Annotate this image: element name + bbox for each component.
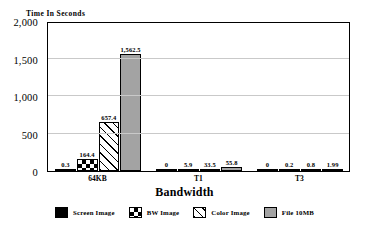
bar-value-label: 657.4 xyxy=(101,114,116,121)
x-tick-label: T3 xyxy=(295,174,304,183)
bar-value-label: 1,562.5 xyxy=(121,46,141,53)
bar: 55.8 xyxy=(221,167,242,171)
bar: 0 xyxy=(257,169,278,172)
bar: 0.3 xyxy=(55,169,76,172)
legend-item: File 10MB xyxy=(264,207,314,218)
legend-label: Screen Image xyxy=(73,209,115,216)
x-tick-label: 64KB xyxy=(88,174,106,183)
bar-group-t3: 00.20.81.99 xyxy=(257,23,344,171)
y-tick-label: 500 xyxy=(0,129,38,140)
bar: 1,562.5 xyxy=(120,54,141,171)
legend-item: Screen Image xyxy=(55,207,115,218)
y-tick-label: 2,000 xyxy=(0,17,38,28)
bar-groups: 0.3164.4657.41,562.505.933.555.800.20.81… xyxy=(48,23,349,171)
legend-label: Color Image xyxy=(211,209,250,216)
gridline xyxy=(48,95,349,96)
legend-item: Color Image xyxy=(193,207,250,218)
plot-area: 0.3164.4657.41,562.505.933.555.800.20.81… xyxy=(47,22,350,172)
bar-value-label: 0.2 xyxy=(285,161,293,168)
bar-group-64kb: 0.3164.4657.41,562.5 xyxy=(55,23,142,171)
bar-value-label: 1.99 xyxy=(327,161,339,168)
x-axis-title: Bandwidth xyxy=(0,185,369,200)
legend-label: BW Image xyxy=(147,209,180,216)
legend-item: BW Image xyxy=(129,207,180,218)
legend-swatch xyxy=(55,207,68,218)
bar-value-label: 0 xyxy=(165,161,168,168)
bar: 5.9 xyxy=(178,169,199,172)
y-tick-label: 1,000 xyxy=(0,92,38,103)
bar-value-label: 0.3 xyxy=(61,161,69,168)
chart-legend: Screen ImageBW ImageColor ImageFile 10MB xyxy=(0,207,369,218)
y-tick-label: 1,500 xyxy=(0,54,38,65)
bar-value-label: 55.8 xyxy=(226,159,238,166)
bar: 33.5 xyxy=(200,169,221,172)
gridline xyxy=(48,133,349,134)
bar: 1.99 xyxy=(322,169,343,172)
bar-value-label: 0 xyxy=(266,161,269,168)
bar-chart: Time In Seconds 0.3164.4657.41,562.505.9… xyxy=(0,0,369,238)
legend-swatch xyxy=(264,207,277,218)
legend-swatch xyxy=(129,207,142,218)
gridline xyxy=(48,58,349,59)
bar: 0.8 xyxy=(301,169,322,172)
bar: 657.4 xyxy=(99,122,120,171)
bar-value-label: 0.8 xyxy=(307,161,315,168)
bar: 164.4 xyxy=(77,159,98,171)
bar-value-label: 164.4 xyxy=(80,151,95,158)
legend-swatch xyxy=(193,207,206,218)
bar-group-t1: 05.933.555.8 xyxy=(156,23,243,171)
bar-value-label: 33.5 xyxy=(204,161,216,168)
bar: 0 xyxy=(156,169,177,172)
x-tick-label: T1 xyxy=(194,174,203,183)
bar-value-label: 5.9 xyxy=(184,161,192,168)
legend-label: File 10MB xyxy=(282,209,314,216)
y-tick-label: 0 xyxy=(0,167,38,178)
bar: 0.2 xyxy=(279,169,300,172)
